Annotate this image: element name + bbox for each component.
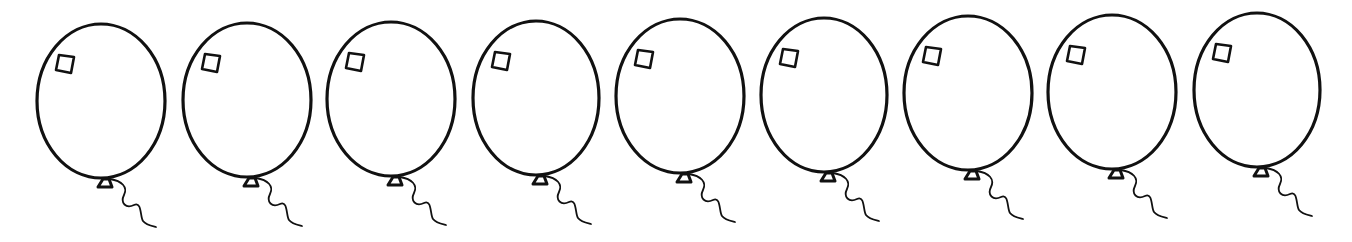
balloon-body (37, 24, 165, 178)
knot-icon (98, 179, 112, 187)
knot-icon (244, 178, 258, 186)
string-icon (110, 179, 156, 227)
balloon (327, 22, 455, 225)
string-icon (977, 171, 1023, 219)
balloon-body (183, 23, 311, 177)
balloon-body (616, 19, 744, 173)
balloon-body (1194, 13, 1320, 167)
balloon-body (327, 22, 455, 176)
string-icon (545, 176, 591, 224)
string-icon (256, 178, 302, 226)
balloon-canvas (0, 0, 1352, 242)
balloon (616, 19, 744, 222)
string-icon (400, 177, 446, 225)
balloon (473, 21, 599, 224)
balloon (183, 23, 311, 226)
balloon-body (761, 18, 887, 172)
balloon (37, 24, 165, 227)
knot-icon (821, 173, 835, 181)
knot-icon (677, 174, 691, 182)
balloon (1048, 15, 1176, 218)
string-icon (833, 173, 879, 221)
knot-icon (965, 171, 979, 179)
balloon (761, 18, 887, 221)
balloon (1194, 13, 1320, 216)
string-icon (689, 174, 735, 222)
string-icon (1266, 168, 1312, 216)
balloon-body (904, 16, 1032, 170)
balloon-body (473, 21, 599, 175)
balloon-body (1048, 15, 1176, 169)
knot-icon (388, 177, 402, 185)
string-icon (1121, 170, 1167, 218)
balloon (904, 16, 1032, 219)
knot-icon (1109, 170, 1123, 178)
balloon-row (0, 0, 1352, 242)
knot-icon (1254, 168, 1268, 176)
knot-icon (533, 176, 547, 184)
